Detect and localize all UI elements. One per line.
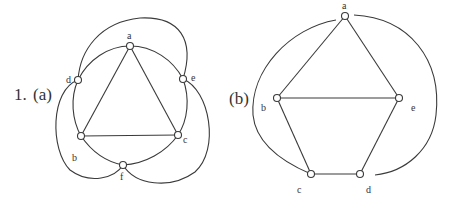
label-b: b [261, 102, 266, 113]
edge-a-e [345, 16, 399, 98]
edge-a-d [354, 15, 437, 175]
edge-f-c [123, 135, 178, 165]
edge-e-c [178, 79, 187, 135]
vertex-f [120, 162, 127, 169]
edge-a-c [130, 46, 178, 135]
vertex-b [78, 133, 85, 140]
vertex-c [175, 132, 182, 139]
label-e: e [411, 102, 416, 113]
edge-a-c [253, 20, 336, 174]
label-d: d [366, 184, 371, 195]
vertex-a [127, 43, 134, 50]
label-e: e [191, 72, 196, 83]
vertex-a [342, 13, 349, 20]
vertex-c [308, 171, 315, 178]
label-b: b [72, 152, 77, 163]
figure-a-label: (a) [33, 85, 52, 104]
graph-diagrams: 1. (a) a d e b c f (b) [0, 0, 449, 204]
figure-b: (b) a b e c d [229, 0, 437, 195]
label-a: a [342, 0, 347, 11]
label-f: f [120, 171, 124, 182]
edge-b-f [81, 136, 123, 165]
vertex-e [180, 76, 187, 83]
label-d: d [66, 74, 71, 85]
edge-e-f [123, 79, 209, 183]
label-c: c [183, 134, 188, 145]
problem-number: 1. [14, 85, 27, 104]
edge-a-e [130, 46, 183, 79]
vertex-d [357, 171, 364, 178]
vertex-e [396, 95, 403, 102]
vertex-b [274, 95, 281, 102]
edge-a-b [81, 46, 130, 136]
figure-b-label: (b) [229, 89, 249, 108]
vertex-d [75, 77, 82, 84]
edge-b-c [81, 135, 178, 136]
edge-b-c [277, 98, 311, 174]
edge-d-b [73, 80, 81, 136]
label-a: a [127, 30, 132, 41]
figure-a: 1. (a) a d e b c f [14, 18, 209, 183]
edge-d-f [56, 80, 123, 178]
edge-d-e [360, 98, 399, 174]
label-c: c [297, 184, 302, 195]
